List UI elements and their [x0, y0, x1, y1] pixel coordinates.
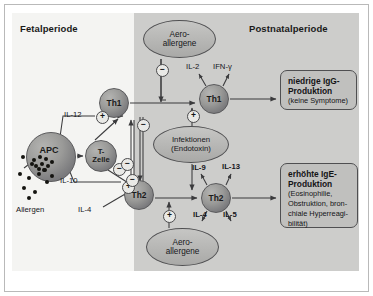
outcome-box-ige: erhöhte IgE- Produktion (Eosinophilie, O…: [280, 163, 358, 228]
node-aeroallergene-bottom: Aero-allergene: [146, 228, 219, 266]
outcome-igg-title-l1: niedrige IgG-: [288, 76, 350, 86]
wire-th1-il2: [199, 74, 206, 86]
outcome-ige-subtitle-l3: chiale Hyperreagi-: [288, 210, 351, 219]
sign-plus-il12: +: [96, 111, 109, 124]
label-il10: IL-10: [60, 176, 78, 185]
label-il4-postnatal: IL-4: [193, 210, 207, 219]
outcome-ige-subtitle-l2: Obstruktion, bron-: [288, 200, 351, 209]
immunology-th1-th2-diagram: Fetalperiode Postnatalperiode: [0, 0, 373, 296]
label-il4-fetal: IL-4: [78, 205, 91, 214]
cell-th2-postnatal: Th2: [201, 183, 231, 213]
sign-plus-aeroallergene-bottom: +: [163, 210, 176, 223]
outcome-igg-subtitle: (keine Symptome): [288, 97, 350, 106]
outcome-ige-subtitle-l1: (Eosinophilie,: [288, 190, 351, 199]
label-il5: IL-5: [223, 210, 237, 219]
cell-th2-fetal-label: Th2: [132, 191, 147, 200]
node-aeroallergene-bottom-label: Aero-allergene: [166, 238, 200, 256]
outcome-igg-title-l2: Produktion: [288, 86, 350, 96]
wire-il12-stem: [60, 116, 95, 137]
sign-minus-infektionen-th2: −: [126, 174, 139, 187]
label-il13: IL-13: [222, 162, 240, 171]
outcome-box-igg: niedrige IgG- Produktion (keine Symptome…: [280, 70, 357, 110]
sign-minus-th1-inhibits-th2: −: [137, 119, 150, 132]
sign-minus-th2-inhibits-th1: −: [121, 158, 134, 171]
node-infektionen: Infektionen(Endotoxin): [153, 126, 229, 163]
wire-th2-il13: [226, 174, 231, 185]
wire-th1-ifng: [223, 74, 229, 86]
outcome-ige-title-l2: Produktion: [288, 179, 351, 189]
infektionen-l2: (Endotoxin): [171, 144, 211, 153]
cell-th1-fetal-label: Th1: [107, 99, 122, 108]
label-il9: IL-9: [192, 163, 206, 172]
label-ifn-gamma: IFN-γ: [213, 62, 232, 71]
node-infektionen-label: Infektionen(Endotoxin): [171, 136, 211, 153]
aeroallergene-bottom-l2: allergene: [166, 247, 200, 256]
cell-th2-postnatal-label: Th2: [209, 194, 224, 203]
outcome-ige-title-l1: erhöhte IgE-: [288, 169, 351, 179]
node-aeroallergene-top-label: Aero-allergene: [163, 30, 197, 48]
label-il2: IL-2: [186, 62, 199, 71]
cell-t-zelle-label-l2: Zelle: [92, 155, 109, 164]
outcome-ige-subtitle-l4: bilität): [288, 220, 351, 229]
cell-th1-postnatal-label: Th1: [207, 95, 222, 104]
wire-th2-il9: [201, 174, 207, 185]
cell-t-zelle-label: T-Zelle: [92, 148, 109, 163]
cell-th1-postnatal: Th1: [199, 84, 229, 114]
infektionen-l1: Infektionen: [172, 135, 210, 144]
sign-plus-infektionen-th1: +: [187, 110, 200, 123]
sign-minus-aeroallergene-top: −: [156, 64, 169, 77]
label-il12: IL-12: [64, 110, 82, 119]
label-allergen: Allergen: [16, 205, 44, 214]
aeroallergene-bottom-l1: Aero-: [172, 238, 192, 247]
node-aeroallergene-top: Aero-allergene: [143, 20, 216, 58]
aeroallergene-top-l1: Aero-: [169, 30, 189, 39]
aeroallergene-top-l2: allergene: [163, 39, 197, 48]
